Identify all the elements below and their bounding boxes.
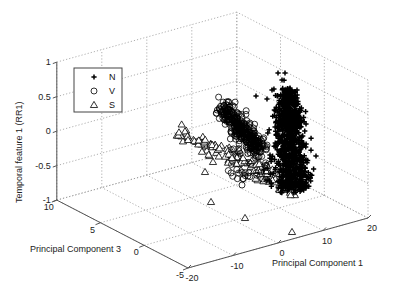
grid-line (57, 12, 237, 62)
plus-point (308, 148, 313, 153)
y-tick-label: 5 (90, 225, 95, 235)
z-tick (53, 62, 57, 64)
legend-label-n: N (109, 72, 116, 82)
plus-point (275, 70, 280, 75)
grid-line (237, 47, 368, 115)
x-tick-label: 20 (367, 223, 377, 233)
triangle-point (175, 129, 182, 135)
circle-point (216, 94, 222, 100)
plus-point (308, 136, 313, 141)
x-tick-label: 0 (279, 248, 284, 258)
z-axis-label: Temporal feature 1 (RR1) (14, 101, 24, 203)
triangle-point (241, 214, 248, 220)
y-tick-label: -5 (176, 270, 184, 280)
z-tick-label: 1 (46, 57, 51, 67)
plus-point (313, 153, 318, 158)
y-tick (139, 245, 144, 247)
z-tick (53, 97, 57, 99)
plus-point (311, 166, 316, 171)
legend-label-s: S (109, 100, 115, 110)
legend-label-v: V (109, 86, 115, 96)
grid-lines (57, 12, 368, 268)
z-tick-label: 0 (46, 126, 51, 136)
scatter3d-chart: -1-0.500.51-50510-20-1001020 Temporal fe… (0, 0, 398, 293)
x-tick-label: -20 (185, 273, 198, 283)
z-tick-label: -0.5 (35, 161, 51, 171)
grid-line (147, 175, 278, 243)
z-tick (53, 166, 57, 168)
legend: N V S (74, 68, 122, 112)
triangle-point (201, 168, 208, 174)
grid-line (237, 12, 368, 80)
x-tick-label: 10 (322, 236, 332, 246)
data-points (173, 70, 318, 234)
triangle-point (178, 121, 185, 127)
x-tick-label: -10 (230, 261, 243, 271)
triangle-point (207, 198, 214, 204)
y-tick (96, 223, 101, 225)
circle-point (234, 176, 240, 182)
plus-point (253, 93, 258, 98)
z-tick-label: 0.5 (38, 92, 51, 102)
y-tick-label: 0 (134, 247, 139, 257)
x-axis-label: Principal Component 1 (272, 258, 363, 268)
x-tick (368, 215, 371, 218)
plus-point (303, 109, 308, 114)
grid-line (102, 188, 233, 256)
plus-point (302, 128, 307, 133)
z-tick (53, 131, 57, 133)
plus-point (264, 96, 269, 101)
triangle-point (288, 228, 295, 234)
plus-point (282, 70, 287, 75)
circle-point (239, 182, 245, 188)
y-tick-label: 10 (44, 202, 54, 212)
y-axis (57, 200, 188, 268)
y-axis-label: Principal Component 3 (30, 244, 121, 254)
